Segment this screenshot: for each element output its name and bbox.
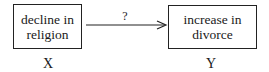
node-y-line1: increase in: [183, 12, 241, 27]
variable-y-label: Y: [201, 56, 221, 72]
node-y-label: increase in divorce: [183, 12, 241, 42]
variable-x-label: X: [38, 56, 58, 72]
node-increase-in-divorce: increase in divorce: [168, 5, 257, 49]
edge-label-question: ?: [119, 9, 131, 24]
node-y-line2: divorce: [183, 27, 241, 42]
